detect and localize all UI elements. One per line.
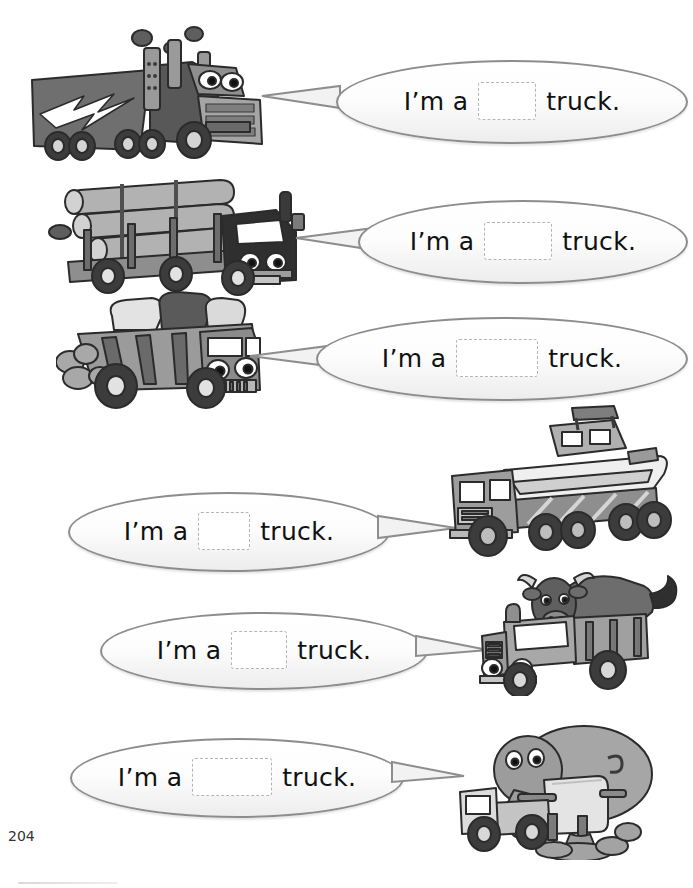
bubble-tail-1 — [262, 82, 342, 116]
illustration-cattle-truck — [478, 564, 690, 696]
illustration-cement-mixer-with-elephant — [452, 718, 688, 860]
speech-bubble-6[interactable]: I’m a truck. — [70, 738, 404, 818]
bubble-5-suffix: truck. — [297, 638, 371, 663]
bubble-4-suffix: truck. — [260, 519, 334, 544]
speech-bubble-2[interactable]: I’m a truck. — [358, 200, 688, 284]
bubble-3-prefix: I’m a — [382, 346, 446, 371]
illustration-boat-carrier-truck — [442, 404, 688, 564]
bubble-2-suffix: truck. — [562, 229, 636, 254]
page-number: 204 — [8, 828, 35, 844]
bubble-1-suffix: truck. — [546, 89, 620, 114]
bubble-4-prefix: I’m a — [124, 519, 188, 544]
bubble-3-suffix: truck. — [548, 346, 622, 371]
speech-bubble-5[interactable]: I’m a truck. — [100, 612, 428, 690]
illustration-logging-truck — [24, 170, 314, 298]
bubble-1-blank[interactable] — [478, 82, 536, 120]
bubble-3-blank[interactable] — [456, 339, 538, 377]
illustration-semi-trailer-truck — [22, 18, 287, 163]
footer-rule — [18, 882, 118, 884]
speech-bubble-1[interactable]: I’m a truck. — [336, 60, 688, 144]
bubble-5-blank[interactable] — [231, 631, 287, 669]
illustration-dump-truck — [56, 290, 274, 410]
bubble-6-suffix: truck. — [282, 765, 356, 790]
bubble-4-blank[interactable] — [198, 512, 250, 550]
speech-bubble-3[interactable]: I’m a truck. — [316, 317, 688, 401]
bubble-1-prefix: I’m a — [404, 89, 468, 114]
bubble-6-prefix: I’m a — [118, 765, 182, 790]
bubble-6-blank[interactable] — [192, 758, 272, 796]
bubble-2-blank[interactable] — [484, 222, 552, 260]
worksheet-page: I’m a truck. — [0, 0, 693, 888]
speech-bubble-4[interactable]: I’m a truck. — [68, 492, 390, 572]
bubble-2-prefix: I’m a — [410, 229, 474, 254]
bubble-5-prefix: I’m a — [157, 638, 221, 663]
